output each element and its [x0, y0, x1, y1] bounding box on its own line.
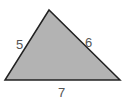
side-label-left: 5 [16, 37, 23, 52]
triangle-diagram: 5 6 7 [0, 0, 128, 100]
side-label-bottom: 7 [58, 85, 65, 100]
side-label-right: 6 [85, 35, 92, 50]
